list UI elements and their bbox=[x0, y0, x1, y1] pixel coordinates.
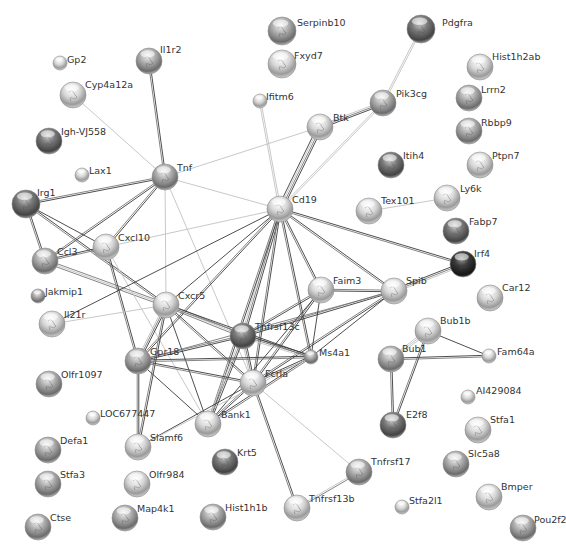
edge-bub1-fam64a[interactable] bbox=[391, 355, 489, 360]
node-label: Il21r bbox=[64, 309, 86, 320]
node-fam64a[interactable]: Fam64a bbox=[482, 346, 535, 363]
node-krt5[interactable]: Krt5 bbox=[212, 447, 257, 475]
sphere-highlight bbox=[361, 200, 375, 207]
node-cd19[interactable]: Cd19 bbox=[267, 194, 317, 222]
node-loc677447[interactable]: LOC677447 bbox=[86, 408, 155, 425]
node-label: Bmper bbox=[501, 481, 533, 492]
node-ai429084[interactable]: AI429084 bbox=[461, 385, 522, 404]
node-car12[interactable]: Car12 bbox=[477, 282, 530, 311]
sphere-highlight bbox=[55, 57, 63, 61]
sphere-highlight bbox=[217, 451, 231, 458]
node-il1r2[interactable]: Il1r2 bbox=[136, 44, 181, 74]
node-ms4a1[interactable]: Ms4a1 bbox=[304, 347, 350, 364]
node-defa1[interactable]: Defa1 bbox=[35, 435, 88, 463]
edge-line bbox=[253, 383, 359, 472]
edge-line bbox=[148, 61, 164, 177]
node-ptpn7[interactable]: Ptpn7 bbox=[467, 150, 520, 178]
edge-line bbox=[45, 261, 166, 305]
node-btk[interactable]: Btk bbox=[307, 112, 349, 140]
sphere-highlight bbox=[255, 95, 263, 99]
node-pou2f2[interactable]: Pou2f2 bbox=[510, 514, 566, 541]
node-cxcl10[interactable]: Cxcl10 bbox=[93, 232, 150, 260]
edge-tnf-cd19[interactable] bbox=[165, 177, 280, 209]
node-hist1h2ab[interactable]: Hist1h2ab bbox=[467, 51, 540, 80]
edge-gpr18-fcrla[interactable] bbox=[138, 360, 253, 384]
node-label: Tnfrsf13b bbox=[308, 493, 355, 504]
edge-line bbox=[252, 383, 296, 508]
edge-line bbox=[279, 209, 310, 357]
sphere-highlight bbox=[65, 84, 79, 91]
node-stfa2l1[interactable]: Stfa2l1 bbox=[395, 495, 443, 514]
node-lrrn2[interactable]: Lrrn2 bbox=[456, 84, 506, 111]
node-lax1[interactable]: Lax1 bbox=[75, 165, 112, 182]
edge-line bbox=[279, 102, 382, 208]
node-olfr1097[interactable]: Olfr1097 bbox=[36, 369, 103, 397]
sphere-highlight bbox=[312, 116, 326, 123]
edge-ifitm6-cd19[interactable] bbox=[259, 101, 281, 209]
edge-cd19-ms4a1[interactable] bbox=[279, 209, 312, 357]
node-label: Pdgfra bbox=[442, 17, 473, 28]
sphere-highlight bbox=[455, 253, 469, 260]
node-ly6k[interactable]: Ly6k bbox=[434, 183, 482, 211]
node-label: Tnfrsf13c bbox=[254, 321, 300, 332]
node-ifitm6[interactable]: Ifitm6 bbox=[253, 91, 294, 108]
node-ctse[interactable]: Ctse bbox=[25, 512, 71, 540]
node-stfa1[interactable]: Stfa1 bbox=[465, 414, 515, 443]
node-map4k1[interactable]: Map4k1 bbox=[112, 503, 175, 531]
edge-il1r2-tnf[interactable] bbox=[148, 61, 166, 177]
node-label: LOC677447 bbox=[100, 408, 155, 419]
node-label: Pou2f2 bbox=[534, 514, 566, 525]
node-bank1[interactable]: Bank1 bbox=[195, 409, 251, 437]
sphere-highlight bbox=[472, 56, 486, 63]
edge-cxcl10-gpr18[interactable] bbox=[105, 247, 139, 361]
node-igh-vj558[interactable]: Igh-VJ558 bbox=[36, 126, 106, 154]
node-cxcr5[interactable]: Cxcr5 bbox=[153, 290, 205, 318]
node-pik3cg[interactable]: Pik3cg bbox=[370, 88, 427, 116]
node-gp2[interactable]: Gp2 bbox=[53, 54, 86, 70]
node-stfa3[interactable]: Stfa3 bbox=[35, 469, 85, 497]
node-hist1h1b[interactable]: Hist1h1b bbox=[200, 502, 268, 530]
edge-tnf-cxcr5[interactable] bbox=[165, 177, 166, 305]
node-bub1b[interactable]: Bub1b bbox=[415, 315, 471, 344]
node-label: Olfr984 bbox=[149, 469, 185, 480]
edge-cxcl10-bank1[interactable] bbox=[106, 247, 208, 424]
node-tnfrsf17[interactable]: Tnfrsf17 bbox=[346, 456, 410, 485]
node-label: Stfa2l1 bbox=[409, 495, 443, 506]
sphere-highlight bbox=[470, 419, 484, 426]
node-slamf6[interactable]: Slamf6 bbox=[125, 432, 183, 460]
sphere-highlight bbox=[289, 497, 303, 504]
node-olfr984[interactable]: Olfr984 bbox=[124, 469, 185, 497]
node-fxyd7[interactable]: Fxyd7 bbox=[268, 50, 323, 78]
node-ccl3[interactable]: Ccl3 bbox=[32, 246, 78, 274]
node-tnfrsf13b[interactable]: Tnfrsf13b bbox=[284, 493, 355, 521]
node-serpinb10[interactable]: Serpinb10 bbox=[268, 17, 346, 45]
node-bmper[interactable]: Bmper bbox=[476, 481, 533, 510]
edge-ccl3-cxcr5[interactable] bbox=[44, 259, 166, 306]
sphere-highlight bbox=[130, 350, 144, 357]
node-irg1[interactable]: Irg1 bbox=[12, 187, 56, 218]
node-e2f8[interactable]: E2f8 bbox=[380, 409, 427, 438]
node-cyp4a12a[interactable]: Cyp4a12a bbox=[60, 79, 133, 108]
edge-line bbox=[261, 101, 281, 209]
node-rbbp9[interactable]: Rbbp9 bbox=[456, 117, 512, 144]
edge-line bbox=[165, 177, 166, 305]
node-label: Krt5 bbox=[237, 447, 257, 458]
sphere-highlight bbox=[383, 348, 397, 355]
node-jakmip1[interactable]: Jakmip1 bbox=[31, 286, 83, 303]
node-pdgfra[interactable]: Pdgfra bbox=[407, 15, 473, 43]
node-label: Fam64a bbox=[497, 346, 535, 357]
node-label: Spib bbox=[406, 275, 427, 286]
node-slc5a8[interactable]: Slc5a8 bbox=[443, 448, 500, 477]
edge-fcrla-tnfrsf17[interactable] bbox=[253, 383, 359, 472]
node-spib[interactable]: Spib bbox=[381, 275, 427, 304]
node-il21r[interactable]: Il21r bbox=[39, 309, 86, 337]
node-tnf[interactable]: Tnf bbox=[152, 162, 193, 190]
sphere-highlight bbox=[482, 287, 496, 294]
node-tex101[interactable]: Tex101 bbox=[356, 195, 415, 224]
node-irf4[interactable]: Irf4 bbox=[450, 248, 490, 277]
node-fabp7[interactable]: Fabp7 bbox=[443, 216, 498, 244]
sphere-highlight bbox=[515, 517, 529, 524]
node-itih4[interactable]: Itih4 bbox=[378, 150, 424, 178]
sphere-highlight bbox=[313, 279, 327, 286]
edge-line bbox=[105, 247, 137, 361]
